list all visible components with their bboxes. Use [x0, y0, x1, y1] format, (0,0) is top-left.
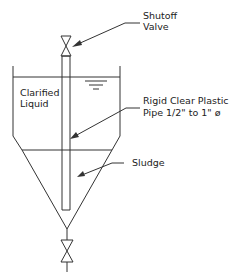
arrowhead-pipe-icon — [70, 132, 79, 139]
leader-shutoff-valve — [78, 23, 140, 44]
label-shutoff-line2: Valve — [143, 21, 169, 32]
label-sludge: Sludge — [132, 157, 165, 168]
label-clarified-line2: Liquid — [20, 98, 49, 109]
label-pipe-line2: Pipe 1/2" to 1" ø — [143, 107, 221, 118]
sampling-pipe — [62, 56, 70, 210]
water-level-symbol-icon — [85, 81, 107, 89]
label-pipe-line1: Rigid Clear Plastic — [143, 95, 229, 106]
settling-tank-diagram: Shutoff Valve Clarified Liquid Rigid Cle… — [0, 0, 242, 278]
leader-pipe — [75, 108, 140, 136]
label-shutoff-line1: Shutoff — [143, 10, 178, 21]
arrowhead-sludge-icon — [77, 171, 85, 177]
top-gate-valve-icon — [61, 36, 71, 56]
label-clarified-line1: Clarified — [20, 87, 60, 98]
bottom-gate-valve-icon — [61, 240, 73, 262]
arrowhead-shutoff-icon — [72, 40, 82, 47]
